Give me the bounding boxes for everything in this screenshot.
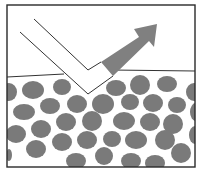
particle	[140, 113, 160, 131]
particle	[13, 104, 35, 120]
particle	[130, 75, 150, 95]
particle	[56, 113, 76, 131]
particle	[143, 94, 163, 112]
reflection-diagram	[0, 0, 201, 175]
particle	[82, 111, 102, 131]
particle	[52, 133, 72, 151]
particle	[121, 94, 139, 110]
particle	[6, 125, 26, 143]
particle	[106, 80, 126, 96]
particle	[31, 120, 51, 138]
particle	[77, 131, 97, 149]
particle	[125, 131, 147, 149]
particle	[168, 97, 186, 113]
particle	[155, 130, 175, 150]
particle	[113, 112, 135, 130]
particle	[53, 79, 71, 95]
particle	[171, 143, 191, 163]
particle	[103, 131, 121, 147]
particle	[26, 140, 46, 158]
particle	[95, 147, 113, 165]
particle	[157, 76, 177, 92]
particle	[22, 81, 44, 99]
particle	[92, 94, 114, 114]
particle	[40, 98, 60, 114]
particle	[67, 95, 87, 113]
